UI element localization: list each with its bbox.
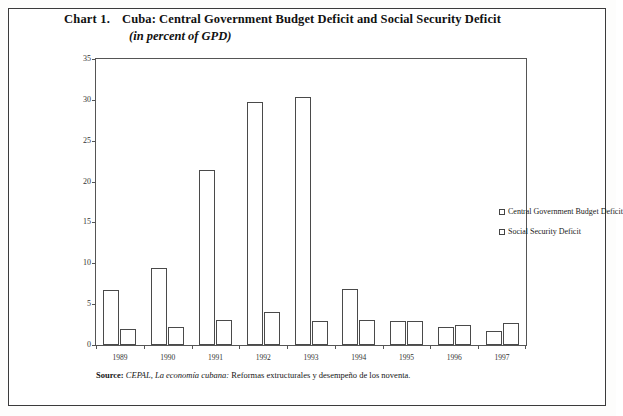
x-axis-tick (525, 345, 526, 349)
legend-label: Social Security Deficit (508, 227, 581, 236)
source-label: Source: (96, 370, 124, 380)
y-axis-label: 0 (87, 341, 91, 349)
y-axis-tick (92, 222, 96, 223)
y-axis-label: 5 (87, 300, 91, 308)
bar-social-security-deficit-1994 (359, 320, 375, 345)
y-axis-tick (92, 263, 96, 264)
x-axis-label: 1996 (447, 354, 462, 362)
source-work: La economía cubana: (155, 370, 229, 380)
y-axis-tick (92, 304, 96, 305)
plot-area: 05101520253035 1989199019911992199319941… (95, 58, 527, 346)
y-axis-label: 10 (83, 259, 91, 267)
bar-social-security-deficit-1995 (407, 321, 423, 345)
x-axis-label: 1993 (304, 354, 319, 362)
chart-number: Chart 1. (64, 12, 110, 27)
y-axis-tick (92, 141, 96, 142)
legend-item: Social Security Deficit (499, 227, 623, 236)
y-axis-label: 30 (83, 96, 91, 104)
chart-subtitle: (in percent of GPD) (129, 29, 584, 44)
bar-central-government-budget-deficit-1989 (103, 290, 119, 345)
bar-social-security-deficit-1992 (264, 312, 280, 346)
x-axis-tick (478, 345, 479, 349)
legend-swatch-icon (499, 209, 505, 215)
x-axis-label: 1997 (495, 354, 510, 362)
bar-social-security-deficit-1990 (168, 327, 184, 345)
x-axis-tick (287, 345, 288, 349)
source-publisher: CEPAL, (126, 370, 153, 380)
y-axis-label: 15 (83, 218, 91, 226)
bar-central-government-budget-deficit-1993 (295, 97, 311, 345)
x-axis-tick (192, 345, 193, 349)
x-axis-label: 1995 (399, 354, 414, 362)
x-axis-label: 1991 (208, 354, 223, 362)
y-axis-tick (92, 100, 96, 101)
legend-item: Central Government Budget Deficit (499, 207, 623, 216)
page-title: Cuba: Central Government Budget Deficit … (122, 12, 501, 27)
bar-social-security-deficit-1993 (312, 321, 328, 346)
x-axis-tick (239, 345, 240, 349)
y-axis-tick (92, 182, 96, 183)
source-rest: Reformas extructurales y desempeño de lo… (231, 370, 410, 380)
x-axis-label: 1989 (112, 354, 127, 362)
bar-central-government-budget-deficit-1992 (247, 102, 263, 346)
bar-central-government-budget-deficit-1991 (199, 170, 215, 345)
bar-social-security-deficit-1997 (503, 323, 519, 345)
bar-social-security-deficit-1991 (216, 320, 232, 345)
bar-social-security-deficit-1989 (120, 329, 136, 345)
x-axis-label: 1990 (160, 354, 175, 362)
x-axis-tick (96, 345, 97, 349)
bar-central-government-budget-deficit-1990 (151, 268, 167, 345)
x-axis-tick (383, 345, 384, 349)
bar-central-government-budget-deficit-1994 (342, 289, 358, 345)
bar-central-government-budget-deficit-1996 (438, 327, 454, 345)
x-axis-label: 1994 (351, 354, 366, 362)
y-axis-tick (92, 59, 96, 60)
bar-central-government-budget-deficit-1995 (390, 321, 406, 345)
chart-legend: Central Government Budget Deficit Social… (499, 207, 623, 247)
x-axis-tick (430, 345, 431, 349)
legend-label: Central Government Budget Deficit (508, 207, 623, 216)
chart-title-block: Chart 1. Cuba: Central Government Budget… (64, 12, 584, 44)
bar-social-security-deficit-1996 (455, 325, 471, 345)
legend-swatch-icon (499, 229, 505, 235)
x-axis-label: 1992 (256, 354, 271, 362)
x-axis-tick (335, 345, 336, 349)
y-axis-label: 25 (83, 137, 91, 145)
source-note: Source: CEPAL, La economía cubana: Refor… (96, 370, 566, 381)
bar-central-government-budget-deficit-1997 (486, 331, 502, 345)
x-axis-tick (144, 345, 145, 349)
y-axis-label: 35 (83, 55, 91, 63)
y-axis-label: 20 (83, 178, 91, 186)
